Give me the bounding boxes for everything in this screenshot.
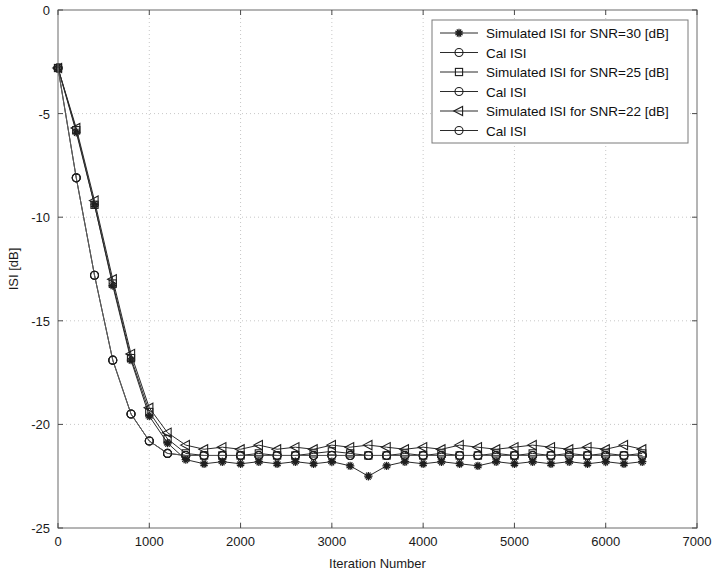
legend: Simulated ISI for SNR=30 [dB]Cal ISISimu… xyxy=(432,20,688,143)
tick-label-x: 5000 xyxy=(500,534,529,549)
x-axis-label: Iteration Number xyxy=(329,556,426,571)
marker-star xyxy=(583,460,591,468)
marker-star xyxy=(236,460,244,468)
marker-star xyxy=(620,460,628,468)
marker-star xyxy=(364,472,372,480)
tick-label-y: -20 xyxy=(31,417,50,432)
marker-star xyxy=(382,462,390,470)
legend-label: Cal ISI xyxy=(486,85,527,100)
tick-label-x: 2000 xyxy=(226,534,255,549)
tick-label-x: 0 xyxy=(54,534,61,549)
legend-label: Cal ISI xyxy=(486,124,527,139)
tick-label-y: 0 xyxy=(43,3,50,18)
marker-star xyxy=(273,460,281,468)
tick-label-y: -5 xyxy=(38,107,50,122)
tick-label-x: 7000 xyxy=(683,534,712,549)
tick-label-x: 1000 xyxy=(135,534,164,549)
marker-star xyxy=(346,462,354,470)
legend-label: Simulated ISI for SNR=22 [dB] xyxy=(486,104,669,119)
tick-label-x: 4000 xyxy=(409,534,438,549)
legend-label: Cal ISI xyxy=(486,46,527,61)
marker-star xyxy=(309,460,317,468)
y-axis-label: ISI [dB] xyxy=(6,248,21,291)
marker-star xyxy=(455,460,463,468)
tick-label-x: 6000 xyxy=(591,534,620,549)
chart-root: 01000200030004000500060007000-25-20-15-1… xyxy=(0,0,718,575)
tick-label-y: -10 xyxy=(31,210,50,225)
marker-star xyxy=(547,460,555,468)
tick-label-y: -15 xyxy=(31,314,50,329)
marker-star xyxy=(474,462,482,470)
marker-star xyxy=(200,460,208,468)
tick-label-x: 3000 xyxy=(317,534,346,549)
marker-star xyxy=(419,460,427,468)
tick-label-y: -25 xyxy=(31,521,50,536)
legend-label: Simulated ISI for SNR=25 [dB] xyxy=(486,65,669,80)
legend-label: Simulated ISI for SNR=30 [dB] xyxy=(486,26,669,41)
isi-convergence-chart: 01000200030004000500060007000-25-20-15-1… xyxy=(0,0,718,575)
marker-star xyxy=(510,460,518,468)
